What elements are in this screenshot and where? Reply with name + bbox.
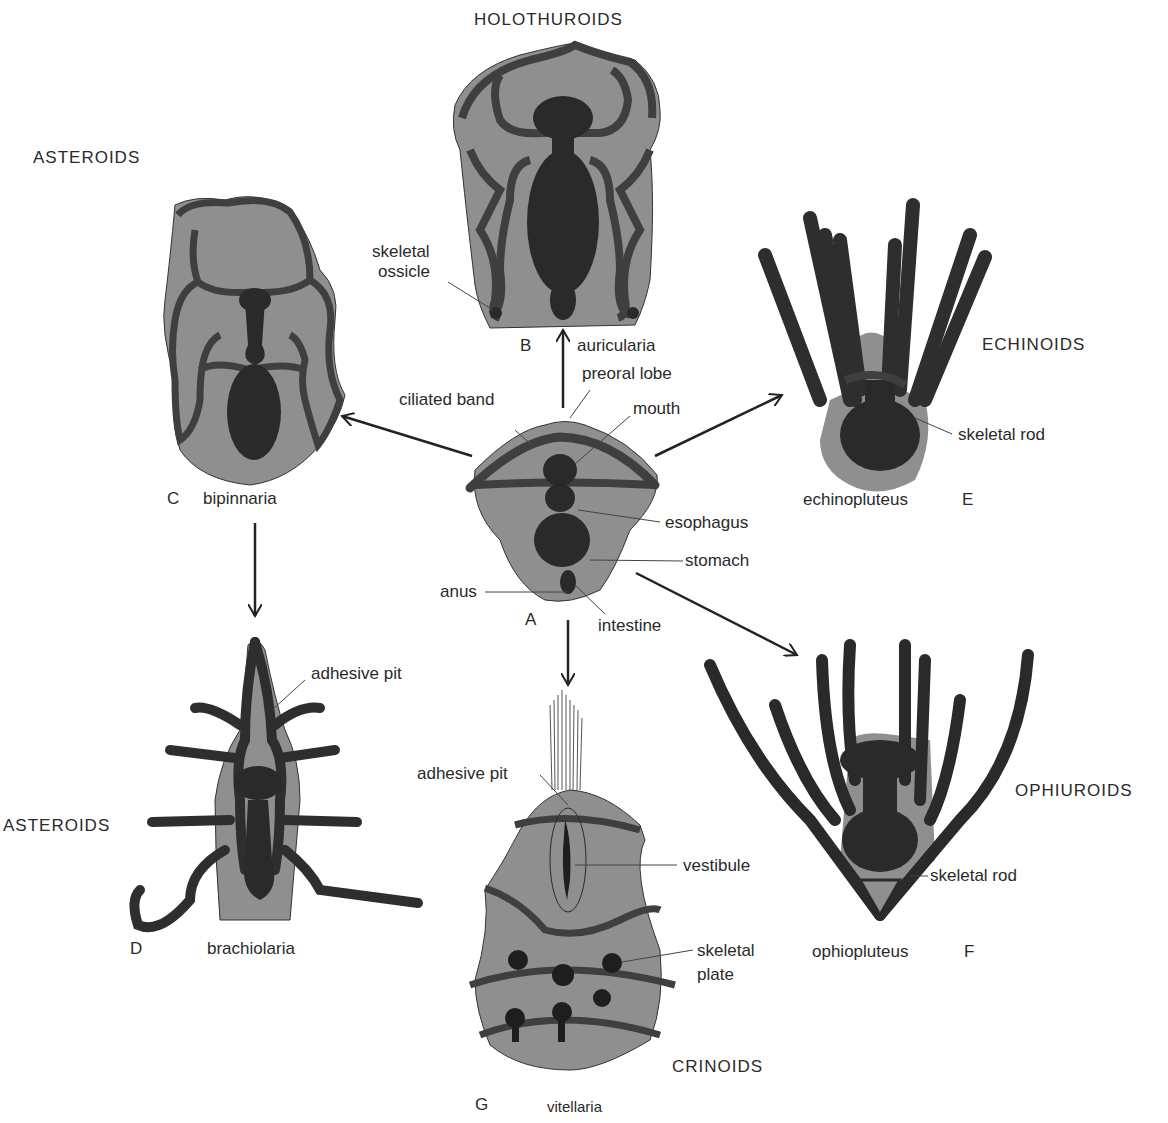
label-stomach: stomach [685,551,749,571]
larva-c-bipinnaria [164,197,345,485]
label-ciliated-band: ciliated band [399,390,494,410]
larva-name-g: vitellaria [547,1097,602,1117]
group-label-ophiuroids: OPHIUROIDS [1015,781,1133,801]
label-skeletal-ossicle-line1: skeletal [372,242,430,262]
label-adhesive-pit-d: adhesive pit [311,664,402,684]
larva-letter-g: G [475,1095,488,1115]
label-mouth: mouth [633,399,680,419]
label-esophagus: esophagus [665,513,748,533]
label-skeletal-rod-e: skeletal rod [958,425,1045,445]
larva-letter-e: E [962,490,973,510]
larva-letter-d: D [130,939,142,959]
group-label-crinoids: CRINOIDS [672,1057,763,1077]
larva-e-echinopluteus [765,205,985,491]
label-vestibule: vestibule [683,856,750,876]
larva-letter-c: C [167,489,179,509]
larva-letter-a: A [525,610,536,630]
label-skeletal-plate-line2: plate [697,965,734,985]
larva-b-auricularia [448,43,660,328]
group-label-asteroids-bottom: ASTEROIDS [3,816,110,836]
label-skeletal-plate-line1: skeletal [697,941,755,961]
larva-g-vitellaria [470,690,693,1070]
group-label-asteroids-top: ASTEROIDS [33,148,140,168]
arrow-a-to-f [636,573,797,655]
arrow-a-to-c [342,416,472,456]
label-adhesive-pit-g: adhesive pit [417,764,508,784]
label-intestine: intestine [598,616,661,636]
larva-name-c: bipinnaria [203,489,277,509]
larva-name-f: ophiopluteus [812,942,908,962]
larva-name-d: brachiolaria [207,939,295,959]
group-label-holothuroids: HOLOTHUROIDS [474,10,623,30]
label-skeletal-rod-f: skeletal rod [930,866,1017,886]
larva-name-b: auricularia [577,336,655,356]
larva-name-e: echinopluteus [803,490,908,510]
larva-letter-b: B [520,336,531,356]
larvae-diagram [0,0,1168,1123]
label-preoral-lobe: preoral lobe [582,364,672,384]
larva-letter-f: F [964,942,974,962]
label-skeletal-ossicle-line2: ossicle [378,262,430,282]
group-label-echinoids: ECHINOIDS [982,335,1085,355]
label-anus: anus [440,582,477,602]
